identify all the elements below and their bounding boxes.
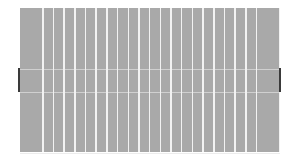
strip-divider-mark xyxy=(76,92,85,93)
strip-divider-mark xyxy=(20,92,42,93)
strip-divider-mark xyxy=(215,92,224,93)
strip-divider-mark xyxy=(215,69,224,70)
right-resize-handle-icon[interactable] xyxy=(279,68,281,92)
panel-strip xyxy=(54,8,63,152)
panel-strip xyxy=(257,8,279,152)
strip-divider-mark xyxy=(44,69,53,70)
panel-strip xyxy=(225,8,234,152)
strip-divider-mark xyxy=(54,69,63,70)
strip-divider-mark xyxy=(118,92,127,93)
strip-divider-mark xyxy=(65,69,74,70)
strip-divider-mark xyxy=(204,69,213,70)
strip-divider-mark xyxy=(129,92,138,93)
panel-strip xyxy=(129,8,138,152)
strip-divider-mark xyxy=(140,92,149,93)
strip-divider-mark xyxy=(172,69,181,70)
strip-divider-mark xyxy=(257,69,279,70)
strip-divider-mark xyxy=(225,92,234,93)
strip-divider-mark xyxy=(257,92,279,93)
panel-strip xyxy=(172,8,181,152)
striped-panel xyxy=(20,8,280,152)
strip-divider-mark xyxy=(97,69,106,70)
strip-divider-mark xyxy=(161,69,170,70)
panel-strip xyxy=(204,8,213,152)
panel-bottom-edge xyxy=(20,153,280,154)
strip-divider-mark xyxy=(54,92,63,93)
strip-divider-mark xyxy=(247,92,256,93)
panel-strip xyxy=(65,8,74,152)
panel-strip xyxy=(150,8,159,152)
panel-strip xyxy=(44,8,53,152)
strip-divider-mark xyxy=(86,92,95,93)
panel-strip xyxy=(86,8,95,152)
panel-strip xyxy=(236,8,245,152)
strip-divider-mark xyxy=(225,69,234,70)
strip-divider-mark xyxy=(44,92,53,93)
panel-strip xyxy=(20,8,42,152)
strip-divider-mark xyxy=(97,92,106,93)
strip-divider-mark xyxy=(161,92,170,93)
strip-divider-mark xyxy=(76,69,85,70)
panel-strip xyxy=(108,8,117,152)
strip-divider-mark xyxy=(129,69,138,70)
strip-divider-mark xyxy=(118,69,127,70)
strip-divider-mark xyxy=(193,92,202,93)
strip-divider-mark xyxy=(150,69,159,70)
panel-strip xyxy=(140,8,149,152)
strip-divider-mark xyxy=(86,69,95,70)
panel-strip xyxy=(76,8,85,152)
strip-divider-mark xyxy=(108,92,117,93)
strip-divider-mark xyxy=(247,69,256,70)
panel-strip xyxy=(118,8,127,152)
strip-divider-mark xyxy=(236,69,245,70)
strip-divider-mark xyxy=(150,92,159,93)
left-resize-handle-icon[interactable] xyxy=(18,68,20,92)
strip-divider-mark xyxy=(172,92,181,93)
strip-divider-mark xyxy=(182,69,191,70)
strip-divider-mark xyxy=(140,69,149,70)
strip-divider-mark xyxy=(20,69,42,70)
strip-divider-mark xyxy=(236,92,245,93)
panel-strip xyxy=(182,8,191,152)
strip-divider-mark xyxy=(204,92,213,93)
strip-divider-mark xyxy=(65,92,74,93)
panel-strip xyxy=(161,8,170,152)
strip-divider-mark xyxy=(182,92,191,93)
strip-divider-mark xyxy=(108,69,117,70)
panel-strip xyxy=(247,8,256,152)
canvas xyxy=(0,0,294,164)
panel-strip xyxy=(193,8,202,152)
panel-strip xyxy=(97,8,106,152)
panel-strip xyxy=(215,8,224,152)
strip-divider-mark xyxy=(193,69,202,70)
